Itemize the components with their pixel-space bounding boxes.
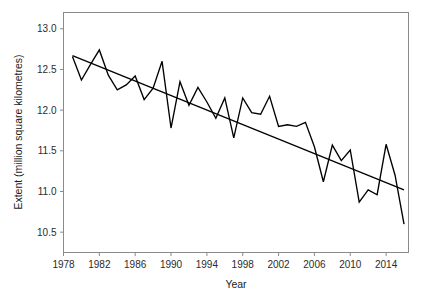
plot-frame bbox=[64, 13, 409, 253]
x-tick-label: 2006 bbox=[303, 259, 326, 270]
x-axis-ticks bbox=[64, 253, 387, 257]
x-tick-label: 2002 bbox=[267, 259, 290, 270]
y-axis-ticks bbox=[60, 29, 64, 232]
y-tick-label: 11.0 bbox=[38, 186, 57, 197]
linear-trend-line bbox=[72, 56, 404, 190]
x-tick-label: 1998 bbox=[232, 259, 255, 270]
y-tick-label: 10.5 bbox=[37, 227, 57, 238]
x-axis-title: Year bbox=[225, 278, 247, 290]
x-tick-label: 1990 bbox=[160, 259, 183, 270]
chart-page: 10.511.011.512.012.513.0 197819821986199… bbox=[0, 0, 424, 299]
x-tick-label: 1986 bbox=[124, 259, 147, 270]
x-tick-label: 1978 bbox=[52, 259, 75, 270]
y-axis-title: Extent (million square kilometres) bbox=[12, 54, 24, 209]
x-axis-tick-labels: 1978198219861990199419982002200620102014 bbox=[52, 259, 397, 270]
y-tick-label: 13.0 bbox=[37, 23, 57, 34]
x-tick-label: 1982 bbox=[88, 259, 111, 270]
x-tick-label: 2014 bbox=[375, 259, 398, 270]
x-tick-label: 1994 bbox=[196, 259, 219, 270]
y-tick-label: 12.0 bbox=[37, 105, 57, 116]
y-tick-label: 12.5 bbox=[37, 64, 57, 75]
plot-frame-group bbox=[64, 13, 409, 253]
x-tick-label: 2010 bbox=[339, 259, 362, 270]
line-chart: 10.511.011.512.012.513.0 197819821986199… bbox=[0, 0, 424, 299]
y-tick-label: 11.5 bbox=[38, 145, 57, 156]
y-axis-tick-labels: 10.511.011.512.012.513.0 bbox=[37, 23, 57, 237]
